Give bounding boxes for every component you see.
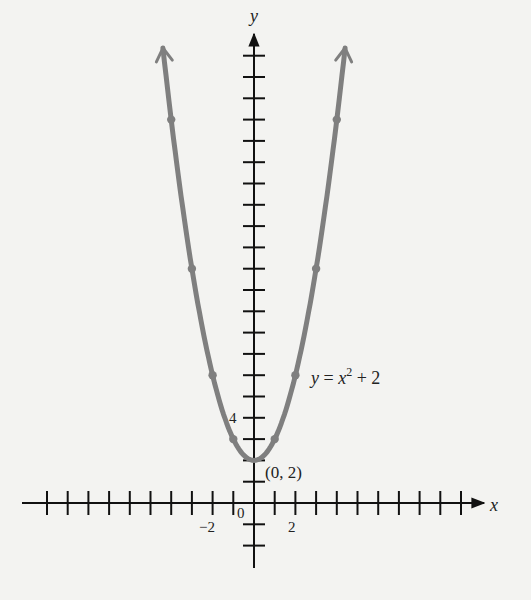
curve-point xyxy=(188,265,196,273)
x-tick-label-2: 2 xyxy=(288,519,296,535)
curve-point xyxy=(208,371,216,379)
parabola-chart: x y −2 0 2 4 (0, 2) y = x2 + 2 xyxy=(0,0,531,600)
x-tick-label-neg2: −2 xyxy=(199,519,215,535)
curve-point xyxy=(333,115,341,123)
x-axis-label: x xyxy=(489,495,498,515)
vertex-label: (0, 2) xyxy=(265,463,302,482)
y-axis xyxy=(243,34,265,568)
curve-point xyxy=(312,265,320,273)
curve-point xyxy=(229,435,237,443)
y-tick-label-4: 4 xyxy=(229,410,237,426)
curve-point xyxy=(271,435,279,443)
origin-label: 0 xyxy=(237,505,245,521)
equation-label: y = x2 + 2 xyxy=(309,365,380,388)
curve-point xyxy=(291,371,299,379)
y-axis-label: y xyxy=(248,6,258,26)
curve-point xyxy=(167,115,175,123)
